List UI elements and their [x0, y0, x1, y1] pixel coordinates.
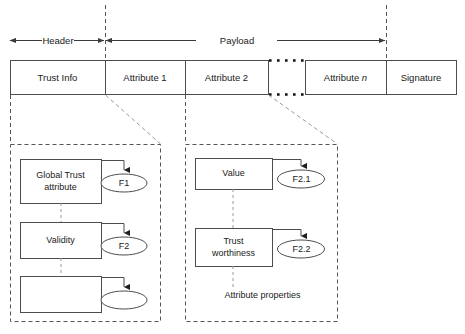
ellipse-empty	[101, 291, 147, 309]
expansion-connector-right-diagonal	[269, 95, 338, 144]
packet-cell-trust-info	[11, 61, 106, 95]
diagram-canvas	[0, 0, 465, 334]
connector-validity-to-f2	[102, 224, 125, 234]
connector-value-to-f21	[273, 160, 302, 167]
node-value	[196, 159, 273, 190]
node-global-trust-attribute	[21, 160, 102, 204]
expansion-connector-left-diagonal	[106, 95, 161, 144]
ellipse-f2-2	[278, 240, 325, 258]
packet-cell-attribute-n	[306, 61, 387, 95]
connector-global-trust-to-f1	[102, 161, 125, 171]
node-empty	[21, 277, 102, 313]
packet-cell-attribute-2	[186, 61, 269, 95]
trust-packet-diagram: Header Payload Trust Info Attribute 1 At…	[0, 0, 465, 334]
node-validity	[21, 223, 102, 259]
ellipse-f1	[101, 174, 147, 192]
packet-cell-attribute-1	[106, 61, 186, 95]
connector-empty-to-ellipse	[102, 278, 125, 288]
connector-trust-worthiness-to-f22	[273, 230, 302, 237]
node-trust-worthiness	[196, 229, 273, 267]
ellipse-f2	[101, 237, 147, 255]
ellipse-f2-1	[278, 170, 325, 188]
packet-cell-signature	[387, 61, 457, 95]
